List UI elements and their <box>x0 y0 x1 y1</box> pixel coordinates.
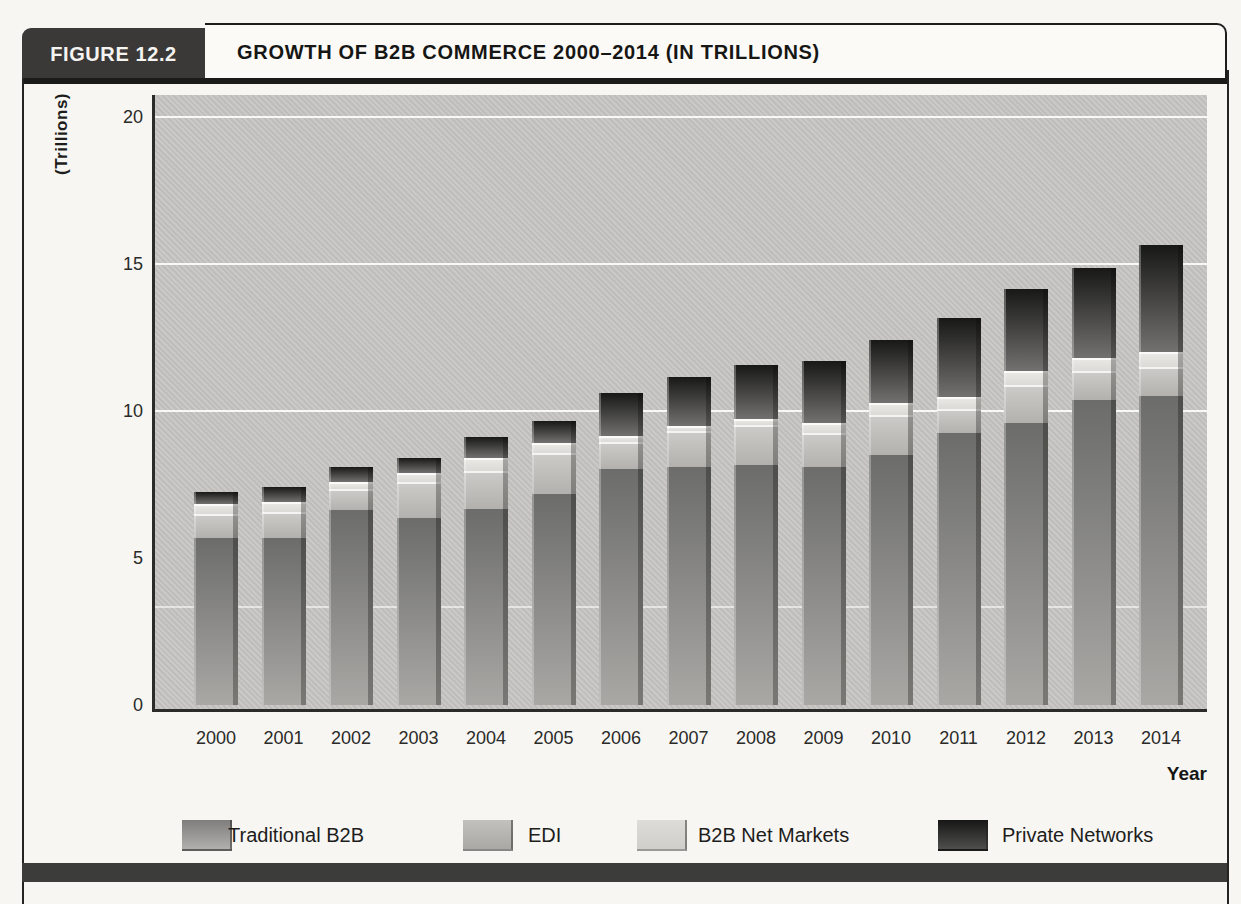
bar-segment-2003-private-networks <box>397 458 441 473</box>
bar-segment-2013-b2b-net-markets <box>1072 358 1116 371</box>
bar-3d-left-highlight <box>1004 289 1006 705</box>
bar-3d-left-highlight <box>464 437 466 705</box>
bar-segment-2003-b2b-net-markets <box>397 473 441 482</box>
x-tick-label-2002: 2002 <box>316 728 386 749</box>
figure-title: GROWTH OF B2B COMMERCE 2000–2014 (IN TRI… <box>205 41 820 64</box>
bar-segment-2012-edi <box>1004 385 1048 423</box>
bar-3d-left-highlight <box>667 377 669 705</box>
stacked-bar-2009 <box>802 361 846 705</box>
legend-label-b2b-net-markets: B2B Net Markets <box>698 824 849 847</box>
stacked-bar-2003 <box>397 458 441 705</box>
bar-3d-left-highlight <box>1139 245 1141 705</box>
bar-segment-2002-b2b-net-markets <box>329 482 373 489</box>
x-tick-label-2001: 2001 <box>249 728 319 749</box>
bar-3d-right-edge <box>503 437 508 705</box>
bar-segment-2009-traditional-b2b <box>802 467 846 705</box>
bar-segment-2005-traditional-b2b <box>532 494 576 704</box>
bar-segment-2011-edi <box>937 409 981 433</box>
bar-3d-right-edge <box>841 361 846 705</box>
bar-segment-2011-b2b-net-markets <box>937 397 981 409</box>
gridline-20 <box>155 116 1207 118</box>
bar-segment-2009-private-networks <box>802 361 846 423</box>
bar-3d-left-highlight <box>937 318 939 705</box>
bar-segment-2014-traditional-b2b <box>1139 396 1183 705</box>
legend-swatch-traditional-b2b <box>182 820 232 851</box>
stacked-bar-2008 <box>734 365 778 705</box>
x-tick-label-2012: 2012 <box>991 728 1061 749</box>
figure-title-band: GROWTH OF B2B COMMERCE 2000–2014 (IN TRI… <box>205 23 1227 80</box>
x-tick-label-2010: 2010 <box>856 728 926 749</box>
bar-segment-2012-private-networks <box>1004 289 1048 371</box>
stacked-bar-2012 <box>1004 289 1048 705</box>
y-axis-title: (Trillions) <box>52 93 72 175</box>
x-tick-label-2007: 2007 <box>654 728 724 749</box>
bar-segment-2000-b2b-net-markets <box>194 504 238 514</box>
bar-3d-right-edge <box>436 458 441 705</box>
bar-segment-2001-private-networks <box>262 487 306 502</box>
bar-segment-2009-edi <box>802 433 846 467</box>
x-tick-label-2013: 2013 <box>1059 728 1129 749</box>
bar-segment-2007-edi <box>667 431 711 466</box>
x-axis-line <box>152 709 1207 712</box>
y-tick-label-15: 15 <box>98 253 143 275</box>
legend-label-private-networks: Private Networks <box>1002 824 1153 847</box>
bar-3d-left-highlight <box>397 458 399 705</box>
bar-segment-2013-traditional-b2b <box>1072 400 1116 704</box>
stacked-bar-2000 <box>194 492 238 705</box>
figure-bottom-band <box>22 863 1227 882</box>
bar-segment-2002-edi <box>329 489 373 510</box>
y-tick-label-5: 5 <box>98 547 143 569</box>
bar-segment-2004-b2b-net-markets <box>464 458 508 471</box>
bar-3d-left-highlight <box>262 487 264 705</box>
bar-3d-right-edge <box>571 421 576 705</box>
bar-segment-2003-edi <box>397 482 441 519</box>
scanned-textbook-figure-page: FIGURE 12.2 GROWTH OF B2B COMMERCE 2000–… <box>0 0 1241 904</box>
bar-segment-2007-traditional-b2b <box>667 467 711 705</box>
bar-segment-2013-private-networks <box>1072 268 1116 358</box>
bar-segment-2010-b2b-net-markets <box>869 403 913 415</box>
legend-label-edi: EDI <box>528 824 561 847</box>
bar-segment-2012-b2b-net-markets <box>1004 371 1048 384</box>
bar-segment-2004-private-networks <box>464 437 508 458</box>
bar-segment-2007-private-networks <box>667 377 711 426</box>
legend-swatch-b2b-net-markets <box>637 820 687 851</box>
bar-segment-2010-edi <box>869 415 913 455</box>
x-tick-label-2003: 2003 <box>384 728 454 749</box>
stacked-bar-2005 <box>532 421 576 705</box>
stacked-bar-2002 <box>329 467 373 705</box>
stacked-bar-2010 <box>869 340 913 705</box>
bar-segment-2011-traditional-b2b <box>937 433 981 705</box>
y-axis-line <box>152 95 155 712</box>
figure-right-border <box>1227 70 1229 904</box>
bar-segment-2014-private-networks <box>1139 245 1183 352</box>
x-tick-label-2008: 2008 <box>721 728 791 749</box>
bar-3d-right-edge <box>301 487 306 705</box>
bar-segment-2010-private-networks <box>869 340 913 403</box>
bar-3d-left-highlight <box>329 467 331 705</box>
stacked-bar-2006 <box>599 393 643 705</box>
bar-segment-2002-private-networks <box>329 467 373 482</box>
bar-segment-2006-edi <box>599 442 643 470</box>
bar-3d-right-edge <box>908 340 913 705</box>
x-axis-title: Year <box>1067 763 1207 785</box>
bar-segment-2006-traditional-b2b <box>599 469 643 704</box>
bar-3d-right-edge <box>773 365 778 705</box>
bar-3d-right-edge <box>1111 268 1116 705</box>
bar-segment-2009-b2b-net-markets <box>802 423 846 433</box>
bar-segment-2004-edi <box>464 471 508 509</box>
bar-3d-left-highlight <box>734 365 736 705</box>
bar-segment-2014-b2b-net-markets <box>1139 352 1183 367</box>
stacked-bar-2007 <box>667 377 711 705</box>
x-tick-label-2009: 2009 <box>789 728 859 749</box>
bar-segment-2012-traditional-b2b <box>1004 423 1048 705</box>
bar-segment-2014-edi <box>1139 367 1183 396</box>
x-tick-label-2005: 2005 <box>519 728 589 749</box>
gridline-15 <box>155 263 1207 265</box>
x-tick-label-2014: 2014 <box>1126 728 1196 749</box>
stacked-bar-2013 <box>1072 268 1116 705</box>
stacked-bar-2004 <box>464 437 508 705</box>
bar-segment-2001-traditional-b2b <box>262 538 306 704</box>
bar-segment-2005-b2b-net-markets <box>532 443 576 453</box>
bar-3d-right-edge <box>368 467 373 705</box>
bar-segment-2008-edi <box>734 425 778 465</box>
